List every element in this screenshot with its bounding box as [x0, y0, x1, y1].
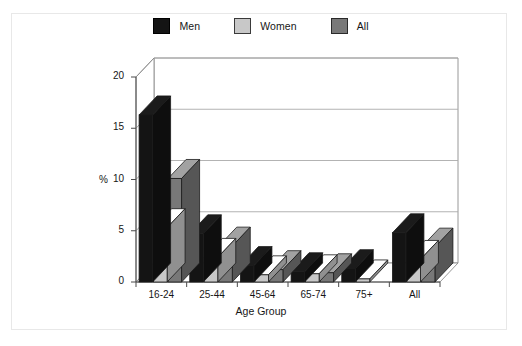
- y-tick-label-5: 5: [100, 224, 124, 235]
- x-tick-label-75+: 75+: [338, 289, 390, 300]
- x-tick-label-65-74: 65-74: [287, 289, 339, 300]
- x-tick-label-All: All: [389, 289, 441, 300]
- x-tick-label-16-24: 16-24: [135, 289, 187, 300]
- y-tick-label-0: 0: [100, 275, 124, 286]
- figure-canvas: Men Women All % Age Group All75+65-7445-…: [0, 0, 522, 346]
- x-tick-label-45-64: 45-64: [237, 289, 289, 300]
- y-tick-label-20: 20: [100, 70, 124, 81]
- y-tick-label-10: 10: [100, 173, 124, 184]
- bar-16-24-Men: [139, 96, 171, 282]
- x-tick-label-25-44: 25-44: [186, 289, 238, 300]
- y-tick-label-15: 15: [100, 121, 124, 132]
- x-axis-title: Age Group: [0, 305, 522, 317]
